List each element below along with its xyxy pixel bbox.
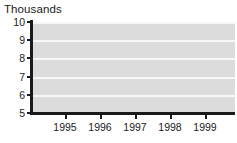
y-tick-mark-8	[27, 57, 31, 59]
x-tick-mark-1996	[100, 114, 102, 119]
x-tick-mark-1998	[170, 114, 172, 119]
data-series	[32, 22, 235, 113]
y-tick-mark-9	[27, 39, 31, 41]
x-tick-mark-1999	[205, 114, 207, 119]
y-tick-mark-5	[27, 112, 31, 114]
y-tick-label-10: 10	[0, 17, 25, 27]
x-tick-mark-1995	[65, 114, 67, 119]
x-tick-label-1998: 1998	[150, 121, 190, 133]
y-tick-mark-7	[27, 76, 31, 78]
y-tick-label-8: 8	[0, 53, 25, 63]
line-chart: Thousands 10 9 8 7 6 5	[0, 0, 237, 143]
x-tick-label-1999: 1999	[185, 121, 225, 133]
x-tick-mark-1997	[135, 114, 137, 119]
x-tick-label-1997: 1997	[115, 121, 155, 133]
y-tick-label-9: 9	[0, 35, 25, 45]
chart-title: Thousands	[4, 2, 62, 16]
y-tick-label-6: 6	[0, 90, 25, 100]
y-tick-label-7: 7	[0, 72, 25, 82]
x-tick-label-1995: 1995	[45, 121, 85, 133]
y-tick-mark-6	[27, 94, 31, 96]
y-tick-mark-10	[27, 21, 31, 23]
y-axis	[30, 20, 33, 115]
y-tick-label-5: 5	[0, 108, 25, 118]
x-tick-label-1996: 1996	[80, 121, 120, 133]
plot-area	[32, 22, 235, 113]
